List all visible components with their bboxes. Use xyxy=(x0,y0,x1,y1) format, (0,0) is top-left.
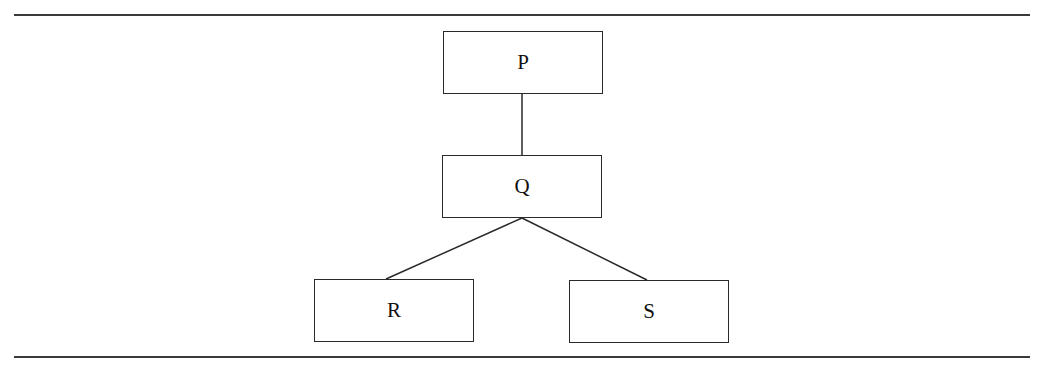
node-p: P xyxy=(443,31,603,94)
edge-q-r xyxy=(386,218,522,279)
node-s-label: S xyxy=(643,299,655,324)
node-q: Q xyxy=(442,155,602,218)
node-r-label: R xyxy=(387,298,401,323)
node-s: S xyxy=(569,280,729,343)
bottom-rule xyxy=(14,356,1030,358)
edge-q-s xyxy=(522,218,647,280)
node-r: R xyxy=(314,279,474,342)
node-p-label: P xyxy=(517,50,529,75)
node-q-label: Q xyxy=(514,174,529,199)
